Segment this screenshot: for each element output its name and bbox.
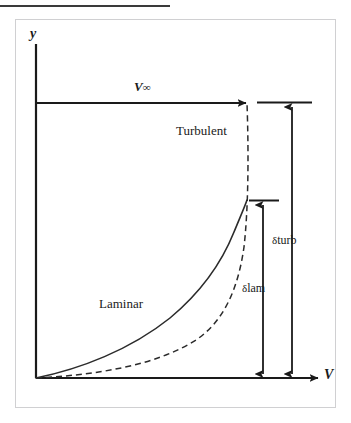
delta-turb-subscript: turb (277, 233, 296, 247)
boundary-layer-plot (0, 0, 351, 423)
freestream-velocity-label: V∞ (134, 80, 151, 93)
delta-turb-label: δturb (272, 234, 297, 246)
delta-lam-label: δlam (242, 282, 265, 294)
y-axis-label: y (30, 27, 36, 41)
laminar-profile-curve (36, 200, 247, 378)
turbulent-curve-label: Turbulent (176, 124, 227, 137)
laminar-curve-label: Laminar (99, 297, 143, 310)
x-axis-label: V (324, 368, 333, 382)
delta-lam-subscript: lam (247, 281, 265, 295)
freestream-velocity-subscript: ∞ (143, 81, 151, 93)
figure-page: y V V∞ Turbulent Laminar δturb δlam (0, 0, 351, 423)
freestream-velocity-symbol: V (134, 79, 143, 94)
